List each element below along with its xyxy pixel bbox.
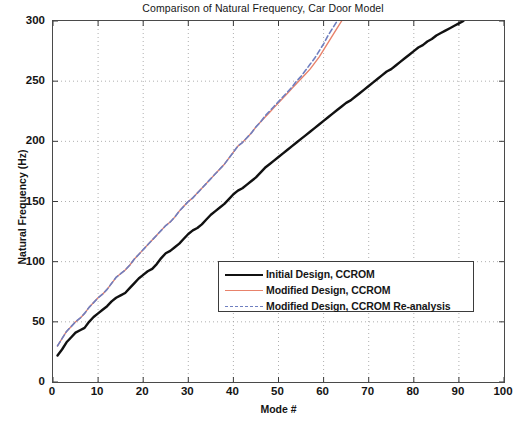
x-tick-label: 90: [438, 385, 478, 397]
y-tick-label: 50: [0, 315, 45, 327]
x-tick-label: 60: [303, 385, 343, 397]
x-tick-label: 30: [167, 385, 207, 397]
x-tick-label: 50: [258, 385, 298, 397]
legend-item-modified-design: Modified Design, CCROM: [219, 282, 473, 297]
chart-title: Comparison of Natural Frequency, Car Doo…: [0, 2, 526, 14]
y-tick-label: 200: [0, 134, 45, 146]
x-tick-label: 80: [393, 385, 433, 397]
x-tick-label: 0: [32, 385, 72, 397]
legend-item-initial-design: Initial Design, CCROM: [219, 266, 473, 281]
grid-lines: [53, 21, 504, 382]
legend-line-swatch-black-icon: [225, 268, 263, 280]
x-axis-label: Mode #: [52, 403, 505, 415]
legend-label: Modified Design, CCROM Re-analysis: [266, 300, 450, 312]
plot-svg: [53, 21, 504, 382]
x-tick-label: 100: [483, 385, 523, 397]
plot-area: [52, 20, 505, 383]
x-tick-label: 70: [348, 385, 388, 397]
legend-label: Modified Design, CCROM: [266, 284, 390, 296]
legend-line-swatch-red-icon: [225, 284, 263, 296]
y-tick-label: 300: [0, 14, 45, 26]
chart-legend: Initial Design, CCROM Modified Design, C…: [218, 261, 474, 312]
y-tick-label: 150: [0, 195, 45, 207]
x-tick-label: 40: [212, 385, 252, 397]
legend-item-modified-design-reanalysis: Modified Design, CCROM Re-analysis: [219, 298, 473, 313]
legend-line-swatch-blue-dashed-icon: [225, 300, 263, 312]
legend-label: Initial Design, CCROM: [266, 268, 375, 280]
x-tick-label: 10: [77, 385, 117, 397]
chart-figure: Comparison of Natural Frequency, Car Doo…: [0, 0, 526, 430]
x-tick-label: 20: [122, 385, 162, 397]
y-tick-label: 250: [0, 74, 45, 86]
y-tick-label: 100: [0, 255, 45, 267]
